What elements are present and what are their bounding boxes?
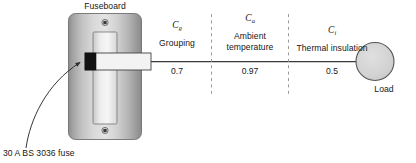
fuseboard-title: Fuseboard — [84, 1, 126, 12]
factor-symbol-ambient: Ca — [245, 13, 254, 23]
factor-symbol-letter-grouping: C — [172, 20, 178, 30]
fuse-carrier — [85, 53, 151, 70]
factor-symbol-letter-insulation: C — [328, 25, 334, 35]
fuseboard-bottom-screw — [102, 127, 108, 133]
factor-symbol-insulation: Ci — [328, 25, 336, 35]
factor-value-insulation: 0.5 — [326, 66, 338, 76]
factor-name-grouping: Grouping — [159, 38, 195, 49]
fuse-carrier-slot — [93, 32, 117, 124]
factor-value-grouping: 0.7 — [171, 66, 183, 76]
factor-symbol-letter-ambient: C — [245, 13, 251, 23]
fuse-annotation-label: 30 A BS 3036 fuse — [3, 148, 75, 159]
diagram-canvas: Fuseboard Cg Grouping 0.7 Ca Ambient tem… — [0, 0, 416, 163]
factor-name-insulation: Thermal insulation — [296, 43, 367, 54]
factor-symbol-subscript-ambient: a — [252, 17, 255, 24]
load-label: Load — [374, 84, 393, 95]
factor-name-ambient: Ambient temperature — [214, 31, 286, 52]
factor-symbol-grouping: Cg — [172, 20, 181, 30]
factor-symbol-subscript-grouping: g — [179, 24, 182, 31]
fuse-element — [85, 53, 96, 70]
factor-value-ambient: 0.97 — [242, 66, 259, 76]
fuseboard-body — [69, 14, 142, 140]
fuseboard-top-screw — [102, 19, 108, 25]
derating-factor-diagram — [0, 0, 416, 163]
